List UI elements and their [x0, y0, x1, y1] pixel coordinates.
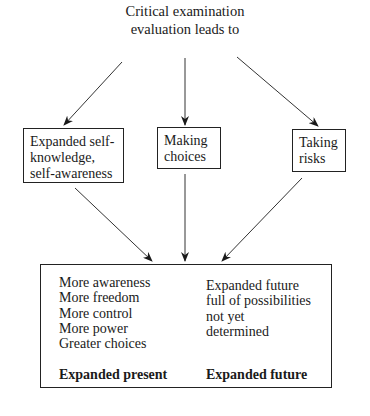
box-line: Taking — [299, 135, 339, 151]
box-line: Expanded self- — [30, 134, 117, 150]
box-self-knowledge: Expanded self- knowledge, self-awareness — [23, 128, 124, 183]
future-item: full of possibilities — [206, 293, 311, 308]
present-item: More awareness — [59, 275, 150, 290]
diagram-title: Critical examination evaluation leads to — [0, 2, 370, 38]
box-line: knowledge, — [30, 150, 117, 166]
arrow-taking-risks-to-outcome — [222, 178, 302, 261]
expanded-present-heading: Expanded present — [59, 367, 167, 382]
box-making-choices: Making choices — [157, 127, 221, 169]
present-item: Greater choices — [59, 336, 150, 351]
box-outcome: More awareness More freedom More control… — [40, 264, 332, 388]
future-item: determined — [206, 324, 311, 339]
expanded-future-heading: Expanded future — [206, 367, 307, 382]
future-item: not yet — [206, 309, 311, 324]
box-line: risks — [299, 151, 339, 167]
box-line: choices — [164, 149, 214, 165]
box-line: Making — [164, 133, 214, 149]
present-item: More control — [59, 306, 150, 321]
arrow-title-to-taking-risks — [237, 57, 318, 126]
expanded-present-column: More awareness More freedom More control… — [59, 275, 150, 351]
present-item: More power — [59, 321, 150, 336]
box-line: self-awareness — [30, 166, 117, 182]
title-line-1: Critical examination — [0, 2, 370, 20]
future-item: Expanded future — [206, 278, 311, 293]
present-item: More freedom — [59, 290, 150, 305]
box-taking-risks: Taking risks — [292, 129, 346, 172]
arrow-self-knowledge-to-outcome — [75, 188, 152, 261]
expanded-future-column: Expanded future full of possibilities no… — [206, 278, 311, 339]
title-line-2: evaluation leads to — [0, 20, 370, 38]
arrow-title-to-self-knowledge — [64, 62, 122, 125]
